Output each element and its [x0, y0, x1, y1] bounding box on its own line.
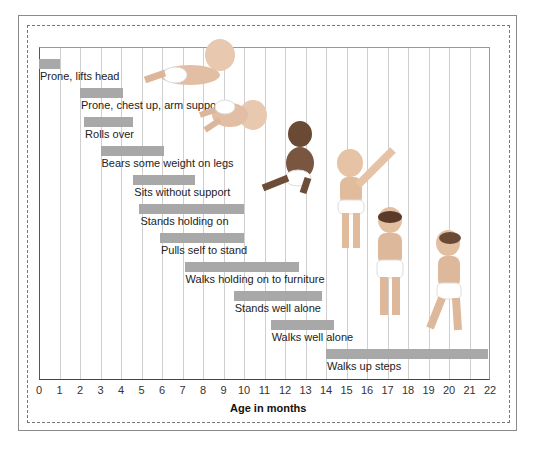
x-tick-label: 21 [460, 384, 480, 396]
x-tick-label: 14 [316, 384, 336, 396]
milestone-label: Walks well alone [272, 331, 354, 343]
x-tick-label: 6 [152, 384, 172, 396]
milestone-label: Walks up steps [327, 360, 401, 372]
x-tick-label: 4 [111, 384, 131, 396]
milestone-label: Stands well alone [235, 302, 321, 314]
x-tick-label: 2 [70, 384, 90, 396]
milestone-bar [271, 320, 335, 330]
x-tick-label: 22 [480, 384, 500, 396]
milestone-label: Stands holding on [140, 215, 228, 227]
milestone-label: Pulls self to stand [161, 244, 247, 256]
toddler-walking-illustration [420, 228, 480, 338]
x-tick-label: 1 [50, 384, 70, 396]
milestone-bar [80, 88, 123, 98]
x-tick-label: 11 [255, 384, 275, 396]
milestone-label: Prone, lifts head [40, 70, 120, 82]
x-tick-label: 19 [419, 384, 439, 396]
milestone-label: Rolls over [85, 128, 134, 140]
milestone-bar [326, 349, 488, 359]
milestone-label: Bears some weight on legs [102, 157, 234, 169]
x-tick-label: 12 [275, 384, 295, 396]
x-tick-label: 16 [357, 384, 377, 396]
milestone-bar [101, 146, 165, 156]
x-tick-label: 0 [29, 384, 49, 396]
milestone-bar [234, 291, 322, 301]
milestone-bar [84, 117, 133, 127]
x-tick-label: 18 [398, 384, 418, 396]
x-tick-label: 7 [173, 384, 193, 396]
x-tick-label: 17 [378, 384, 398, 396]
baby-sitting-illustration [258, 118, 323, 198]
x-axis-title: Age in months [230, 402, 306, 414]
milestone-label: Sits without support [134, 186, 230, 198]
toddler-standing-illustration [368, 205, 413, 320]
x-tick-label: 10 [234, 384, 254, 396]
x-tick-label: 9 [214, 384, 234, 396]
milestone-bar [185, 262, 300, 272]
milestone-bar [160, 233, 244, 243]
milestone-bar [139, 204, 244, 214]
x-tick-label: 3 [91, 384, 111, 396]
milestone-bar [39, 59, 60, 69]
baby-prone-illustration [135, 35, 235, 90]
x-tick-label: 15 [337, 384, 357, 396]
x-tick-label: 8 [193, 384, 213, 396]
milestone-label: Walks holding on to furniture [186, 273, 325, 285]
x-tick-label: 5 [132, 384, 152, 396]
milestone-bar [133, 175, 195, 185]
x-tick-label: 13 [296, 384, 316, 396]
x-tick-label: 20 [439, 384, 459, 396]
